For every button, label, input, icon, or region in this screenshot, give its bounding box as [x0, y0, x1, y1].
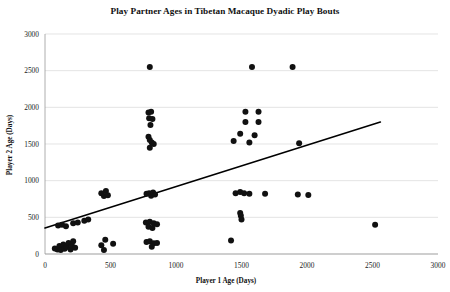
y-tick-label-3000: 3000	[24, 30, 39, 39]
data-point	[241, 190, 247, 196]
x-tick-label-0: 0	[43, 261, 47, 270]
x-tick-label-2000: 2000	[300, 261, 315, 270]
x-tick-label-1500: 1500	[234, 261, 249, 270]
data-point	[110, 241, 116, 247]
data-point	[101, 247, 107, 253]
data-point	[372, 222, 378, 228]
data-point	[242, 119, 248, 125]
data-point	[237, 131, 243, 137]
data-point	[256, 109, 262, 115]
data-point	[102, 237, 108, 243]
data-point	[305, 192, 311, 198]
y-tick-label-2000: 2000	[24, 103, 39, 112]
y-tick-label-0: 0	[35, 250, 39, 259]
chart-figure: Play Partner Ages in Tibetan Macaque Dya…	[0, 0, 450, 292]
data-point	[296, 140, 302, 146]
x-tick-label-1000: 1000	[169, 261, 184, 270]
x-tick-labels-group: 050010001500200025003000	[43, 261, 446, 270]
trendline	[45, 122, 380, 228]
data-point	[290, 64, 296, 70]
data-point	[152, 192, 158, 198]
x-tick-label-500: 500	[105, 261, 116, 270]
data-point	[228, 237, 234, 243]
x-axis-title: Player 1 Age (Days)	[196, 277, 257, 285]
data-point	[239, 217, 245, 223]
x-tick-label-2500: 2500	[365, 261, 380, 270]
y-tick-label-1000: 1000	[24, 176, 39, 185]
data-point	[147, 122, 153, 128]
data-point	[70, 238, 76, 244]
y-tick-labels-group: 050010001500200025003000	[24, 30, 39, 259]
data-point	[249, 64, 255, 70]
data-point	[149, 244, 155, 250]
trendline-group	[45, 122, 380, 228]
data-point	[295, 192, 301, 198]
data-point	[252, 132, 258, 138]
data-point	[256, 119, 262, 125]
y-tick-label-1500: 1500	[24, 140, 39, 149]
data-point	[149, 116, 155, 122]
data-points-group	[52, 64, 378, 253]
y-tick-label-2500: 2500	[24, 66, 39, 75]
data-point	[262, 191, 268, 197]
y-axis-title: Player 2 Age (Days)	[6, 114, 14, 175]
data-point	[246, 191, 252, 197]
data-point	[63, 223, 69, 229]
scatter-plot: 050010001500200025003000 050010001500200…	[0, 0, 450, 292]
data-point	[154, 240, 160, 246]
data-point	[105, 192, 111, 198]
data-point	[231, 138, 237, 144]
data-point	[75, 219, 81, 225]
data-point	[85, 217, 91, 223]
data-point	[147, 64, 153, 70]
x-tick-label-3000: 3000	[431, 261, 446, 270]
data-point	[72, 245, 78, 251]
data-point	[148, 109, 154, 115]
data-point	[242, 109, 248, 115]
y-tick-label-500: 500	[28, 213, 39, 222]
data-point	[149, 225, 155, 231]
data-point	[246, 140, 252, 146]
data-point	[147, 145, 153, 151]
